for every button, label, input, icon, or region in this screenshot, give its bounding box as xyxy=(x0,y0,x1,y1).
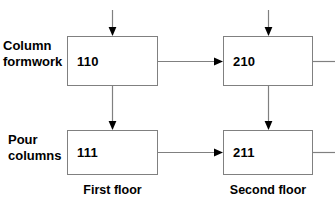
node-110-label: 110 xyxy=(68,54,99,69)
node-110[interactable]: 110 xyxy=(67,36,158,86)
row-label-pour-columns-line2: columns xyxy=(8,148,61,163)
row-label-column-formwork: Column formwork xyxy=(3,38,62,70)
row-label-column-formwork-line1: Column xyxy=(3,38,51,53)
row-label-column-formwork-line2: formwork xyxy=(3,54,62,69)
node-111-label: 111 xyxy=(68,145,98,160)
flow-diagram: Column formwork Pour columns 110 210 111… xyxy=(0,0,335,204)
column-label-second-floor: Second floor xyxy=(223,183,313,197)
node-210[interactable]: 210 xyxy=(223,36,313,86)
node-210-label: 210 xyxy=(224,54,255,69)
row-label-pour-columns: Pour columns xyxy=(8,132,61,164)
row-label-pour-columns-line1: Pour xyxy=(8,132,38,147)
node-211-label: 211 xyxy=(224,145,255,160)
column-label-first-floor: First floor xyxy=(67,183,158,197)
node-211[interactable]: 211 xyxy=(223,130,313,175)
node-111[interactable]: 111 xyxy=(67,130,158,175)
